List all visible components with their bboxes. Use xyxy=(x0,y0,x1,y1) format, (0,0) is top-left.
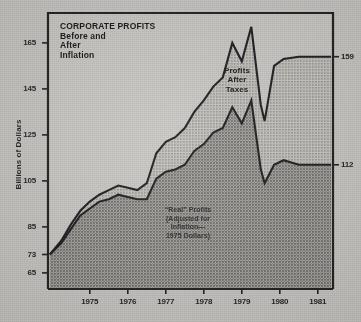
annotation-profits-after-taxes: Profits After Taxes xyxy=(206,66,268,94)
chart-title: CORPORATE PROFITS Before and After Infla… xyxy=(60,22,155,60)
x-tick-label: 1975 xyxy=(70,297,110,306)
x-tick-label: 1979 xyxy=(222,297,262,306)
x-tick-label: 1978 xyxy=(184,297,224,306)
x-tick-label: 1981 xyxy=(298,297,338,306)
y-tick-label: 73 xyxy=(10,250,36,259)
y-tick-label: 165 xyxy=(10,38,36,47)
right-endpoint-label: 112 xyxy=(341,160,361,169)
y-tick-label: 65 xyxy=(10,268,36,277)
y-axis-title: Billions of Dollars xyxy=(14,110,23,200)
y-tick-label: 85 xyxy=(10,222,36,231)
y-tick-label: 145 xyxy=(10,84,36,93)
x-tick-label: 1977 xyxy=(146,297,186,306)
labels-layer: Billions of Dollars CORPORATE PROFITS Be… xyxy=(0,0,361,322)
x-tick-label: 1976 xyxy=(108,297,148,306)
annotation-real-profits: “Real” Profits (Adjusted for Inflation— … xyxy=(145,206,231,240)
chart-page: Billions of Dollars CORPORATE PROFITS Be… xyxy=(0,0,361,322)
y-tick-label: 125 xyxy=(10,130,36,139)
x-tick-label: 1980 xyxy=(260,297,300,306)
right-endpoint-label: 159 xyxy=(341,52,361,61)
y-tick-label: 105 xyxy=(10,176,36,185)
